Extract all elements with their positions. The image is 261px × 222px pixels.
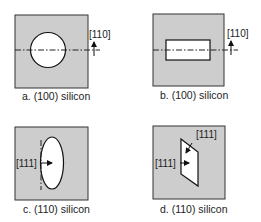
panel-caption: c. (110) silicon [23,203,90,215]
direction-label-left: [111] [155,158,176,169]
direction-label: [110] [227,28,249,39]
direction-label-top: [111] [196,129,217,140]
panel-caption: a. (100) silicon [22,90,90,102]
panel-b: [110] b. (100) silicon [153,14,249,101]
panel-c: [111] c. (110) silicon [15,127,90,215]
panel-a: [110] a. (100) silicon [15,15,111,102]
crystal-orientation-diagram: [110] a. (100) silicon [110] b. (100) si… [0,0,261,222]
panel-caption: d. (110) silicon [160,203,228,215]
panel-caption: b. (100) silicon [160,89,228,101]
direction-label: [110] [89,29,111,40]
panel-d: [111] [111] d. (110) silicon [153,126,228,215]
direction-label: [111] [16,158,37,169]
